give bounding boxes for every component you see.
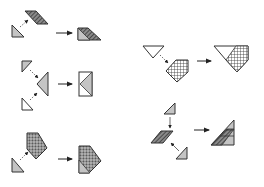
group-3-pentagon — [12, 133, 101, 173]
result-trapezoid — [78, 28, 101, 40]
group-5-triangle — [151, 103, 234, 159]
diagram-canvas — [0, 0, 264, 187]
white-triangle-bottom — [22, 98, 33, 110]
gray-triangle-bottom — [176, 147, 187, 159]
hatched-parallelogram — [25, 11, 48, 24]
gray-triangle-top — [164, 103, 175, 114]
dotted-arrow-bottom — [30, 93, 37, 100]
gray-triangle — [12, 158, 24, 172]
result-pentagon — [79, 146, 101, 173]
gray-triangle — [12, 25, 24, 37]
hatched-parallelogram — [151, 131, 173, 143]
crosshatched-pentagon — [166, 60, 188, 82]
group-2-rectangle — [22, 61, 92, 110]
group-4-inverted-pentagon — [143, 46, 248, 82]
result-rectangle — [79, 72, 92, 96]
dotted-arrow — [20, 152, 28, 160]
dotted-arrow-top — [30, 70, 38, 78]
gray-triangle-left — [37, 72, 48, 96]
dotted-arrow — [20, 20, 28, 27]
diagram-svg — [0, 0, 264, 187]
result-triangle — [211, 120, 234, 145]
dotted-pentagon — [27, 133, 47, 159]
group-1-trapezoid — [12, 11, 101, 40]
result-inverted-pentagon — [214, 46, 248, 72]
dotted-arrow — [160, 55, 168, 63]
arrow-up-left — [171, 143, 179, 151]
